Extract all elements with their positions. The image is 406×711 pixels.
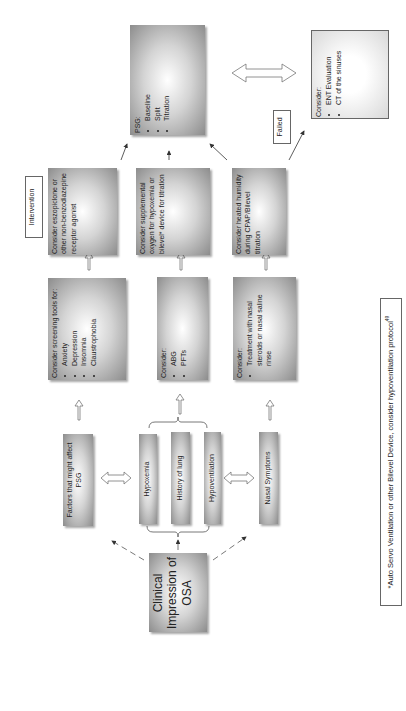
consider-item: Insomnia bbox=[79, 280, 88, 366]
ent-item: ENT Evaluation bbox=[324, 33, 333, 105]
consider-item: Anxiety bbox=[60, 280, 69, 366]
failed-label: Failed bbox=[273, 110, 291, 144]
factors-box: Factors that might affect PSG bbox=[63, 434, 93, 526]
clinical-impression-box: Clinical Impression of OSA bbox=[149, 553, 207, 632]
hypoventilation-box: Hypoventilation bbox=[204, 432, 221, 524]
nasal-symptoms-box: Nasal Symptoms bbox=[259, 432, 278, 524]
psg-title: PSG: bbox=[133, 27, 142, 133]
consider-screening-box: Consider screening tools for: Anxiety De… bbox=[48, 278, 126, 380]
consider-item: Treatment with nasal steroids or nasal s… bbox=[245, 280, 273, 366]
consider-title: Consider: bbox=[235, 280, 244, 378]
consider-title: Consider screening tools for: bbox=[50, 280, 59, 378]
intervention-box-humidity: Consider heated humidity during CPAP/Bil… bbox=[232, 168, 286, 255]
ent-item: CT of the sinuses bbox=[334, 33, 343, 105]
history-of-lung-box: History of lung bbox=[171, 432, 190, 524]
intervention-label: Intervention bbox=[25, 176, 43, 238]
footnote-box: *Auto Servo Ventilation or other Bilevel… bbox=[380, 298, 402, 606]
psg-item: Baseline bbox=[143, 27, 152, 121]
footnote-ref: 49 bbox=[384, 316, 390, 322]
consider-item: PFTs bbox=[178, 280, 187, 366]
psg-item: Titration bbox=[162, 27, 171, 121]
consider-item: Claustrophobia bbox=[89, 280, 98, 366]
consider-abg-box: Consider: ABG PFTs bbox=[157, 277, 208, 380]
consider-title: Consider: bbox=[159, 280, 168, 378]
footnote-text: *Auto Servo Ventilation or other Bilevel… bbox=[386, 321, 395, 588]
hypoxemia-box: Hypoxemia bbox=[139, 434, 157, 524]
intervention-box-oxygen: Consider supplemental oxygen for hypoxem… bbox=[136, 168, 210, 255]
ent-box: Consider: ENT Evaluation CT of the sinus… bbox=[311, 30, 389, 119]
intervention-box-sleep: Consider eszopiclone or other non-benzod… bbox=[48, 168, 117, 255]
consider-item: Depression bbox=[70, 280, 79, 366]
ent-title: Consider: bbox=[314, 33, 323, 117]
psg-item: Split bbox=[152, 27, 161, 121]
psg-box: PSG: Baseline Split Titration bbox=[130, 25, 205, 135]
consider-item: ABG bbox=[169, 280, 178, 366]
consider-nasal-box: Consider: Treatment with nasal steroids … bbox=[233, 277, 296, 380]
